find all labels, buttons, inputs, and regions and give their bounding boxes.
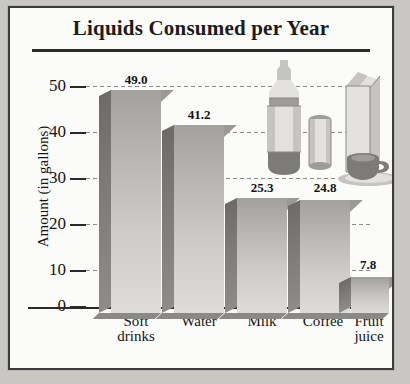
bar-front-face	[174, 125, 224, 313]
bar-front-face	[237, 198, 287, 313]
value-label-water: 41.2	[169, 107, 229, 123]
category-line-2: drinks	[102, 329, 170, 344]
bar-front-face	[351, 277, 389, 313]
chart-frame: Liquids Consumed per Year 50 40 30 20 10…	[8, 6, 394, 370]
bar-side-face	[339, 277, 351, 313]
bar-base-face	[219, 313, 287, 319]
tick-10	[70, 270, 86, 272]
bar-base-face	[93, 313, 161, 319]
category-line-2: juice	[344, 329, 394, 344]
tick-30	[70, 178, 86, 180]
bar-side-face	[225, 198, 237, 313]
chart-screenshot: Liquids Consumed per Year 50 40 30 20 10…	[0, 0, 410, 384]
plot-area: 50 40 30 20 10 0 Amount (in gallons)	[10, 8, 392, 368]
bar-base-face	[156, 313, 224, 319]
bar-side-face	[99, 90, 111, 313]
bar-fruit-juice	[351, 277, 389, 313]
value-label-soft-drinks: 49.0	[106, 72, 166, 88]
tick-40	[70, 132, 86, 134]
soda-can-icon	[307, 114, 333, 171]
bar-side-face	[288, 200, 300, 313]
soda-bottle-icon	[258, 60, 310, 175]
bar-base-face	[333, 313, 389, 319]
y-axis-title: Amount (in gallons)	[35, 92, 52, 282]
value-label-milk: 25.3	[232, 180, 292, 196]
bar-milk	[237, 198, 287, 313]
bar-soft-drinks	[111, 90, 161, 313]
bar-side-face	[162, 125, 174, 313]
bar-water	[174, 125, 224, 313]
value-label-fruit-juice: 7.8	[340, 257, 394, 273]
tick-50	[70, 86, 86, 88]
value-label-coffee: 24.8	[295, 180, 355, 196]
ytick-label-0: 0	[28, 296, 66, 316]
bar-front-face	[111, 90, 161, 313]
tick-20	[70, 224, 86, 226]
